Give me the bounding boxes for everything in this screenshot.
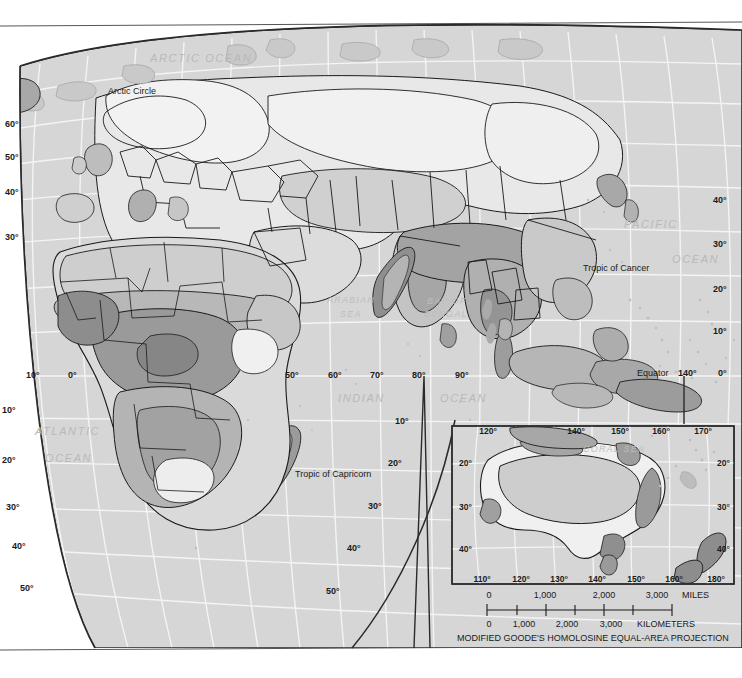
scale-km-unit: KILOMETERS xyxy=(637,619,695,629)
latitude-right-3: 10° xyxy=(713,326,727,336)
world-map-figure: ARCTIC OCEANATLANTICOCEANPACIFICOCEANIND… xyxy=(0,0,742,678)
inset-latitude-left-1: 30° xyxy=(459,502,472,512)
latitude-right-2: 20° xyxy=(713,284,727,294)
latitude-left-4: 10° xyxy=(2,405,16,415)
latitude-left-5: 20° xyxy=(2,455,16,465)
scale-miles-tick-0: 0 xyxy=(486,590,491,600)
scale-km-tick-2: 2,000 xyxy=(556,619,579,629)
ocean-label-indian-ocean-2: OCEAN xyxy=(440,392,487,404)
sea-label-arabian-sea-1: ARABIAN xyxy=(326,295,375,305)
inset-longitude-bottom-1: 120° xyxy=(512,574,530,584)
latitude-left-0: 60° xyxy=(5,119,19,129)
inset-latitude-right-2: 40° xyxy=(717,544,730,554)
sea-label-coral-sea: CORAL SEA xyxy=(583,444,645,454)
longitude-6: 90° xyxy=(455,370,469,380)
latitude-right-1: 30° xyxy=(713,239,727,249)
sea-label-bay-of-bengal-1: BAY OF xyxy=(427,296,466,306)
scale-km-tick-3: 3,000 xyxy=(600,619,623,629)
ocean-label-pacific-ocean-1: PACIFIC xyxy=(624,218,678,230)
longitude-1: 0° xyxy=(68,370,77,380)
latitude-left-7: 40° xyxy=(12,541,26,551)
ocean-label-pacific-ocean-2: OCEAN xyxy=(672,253,719,265)
latitude-inner-right-3: 40° xyxy=(347,543,361,553)
longitude-0: 10° xyxy=(26,370,40,380)
west-africa-zone xyxy=(58,291,119,345)
latitude-left-8: 50° xyxy=(20,583,34,593)
inset-latitude-left-2: 40° xyxy=(459,544,472,554)
inset-latitude-left-0: 20° xyxy=(459,458,472,468)
reference-label-equator: Equator xyxy=(637,368,669,378)
sea-label-bay-of-bengal-2: BENGAL xyxy=(424,309,468,319)
ocean-label-atlantic-ocean-1: ATLANTIC xyxy=(34,425,100,437)
longitude-4: 70° xyxy=(370,370,384,380)
inset-longitude-top-3: 160° xyxy=(652,426,670,436)
scale-miles-unit: MILES xyxy=(682,590,709,600)
reference-label-arctic-circle: Arctic Circle xyxy=(108,86,156,96)
inset-longitude-top-1: 140° xyxy=(567,426,585,436)
reference-label-tropic-of-capricorn: Tropic of Capricorn xyxy=(295,469,371,479)
hainan xyxy=(498,319,512,340)
latitude-left-3: 30° xyxy=(5,232,19,242)
latitude-right-0: 40° xyxy=(713,195,727,205)
inset-longitude-bottom-2: 130° xyxy=(550,574,568,584)
ocean-label-atlantic-ocean-2: OCEAN xyxy=(45,452,92,464)
latitude-right-4: 0° xyxy=(718,368,727,378)
sea-label-arabian-sea-2: SEA xyxy=(340,309,362,319)
inset-latitude-right-0: 20° xyxy=(717,458,730,468)
scale-km-tick-1: 1,000 xyxy=(513,619,536,629)
longitude-3: 60° xyxy=(328,370,342,380)
scale-miles-tick-3: 3,000 xyxy=(646,590,669,600)
east-africa-pale xyxy=(232,329,278,374)
longitude-7: 140° xyxy=(678,368,697,378)
inset-longitude-top-4: 170° xyxy=(694,426,712,436)
longitude-5: 80° xyxy=(412,370,426,380)
latitude-inner-right-0: 10° xyxy=(395,416,409,426)
latitude-left-2: 40° xyxy=(5,187,19,197)
map-page: ARCTIC OCEANATLANTICOCEANPACIFICOCEANIND… xyxy=(0,0,742,678)
latitude-inner-right-2: 30° xyxy=(368,501,382,511)
latitude-inner-right-4: 50° xyxy=(326,586,340,596)
reference-label-tropic-of-cancer: Tropic of Cancer xyxy=(583,263,649,273)
latitude-left-1: 50° xyxy=(5,152,19,162)
inset-longitude-bottom-5: 160° xyxy=(665,574,683,584)
inset-latitude-right-1: 30° xyxy=(717,502,730,512)
latitude-left-6: 30° xyxy=(6,502,20,512)
scale-miles-tick-1: 1,000 xyxy=(534,590,557,600)
ocean-label-arctic-ocean: ARCTIC OCEAN xyxy=(149,52,252,64)
scale-miles-tick-2: 2,000 xyxy=(593,590,616,600)
inset-longitude-bottom-0: 110° xyxy=(473,574,491,584)
southwest-fringe xyxy=(480,499,501,523)
latitude-inner-right-1: 20° xyxy=(388,458,402,468)
longitude-2: 50° xyxy=(285,370,299,380)
inset-longitude-bottom-3: 140° xyxy=(588,574,606,584)
inset-longitude-bottom-6: 180° xyxy=(707,574,725,584)
inset-longitude-top-0: 120° xyxy=(479,426,497,436)
inset-longitude-bottom-4: 150° xyxy=(627,574,645,584)
scale-km-tick-0: 0 xyxy=(486,619,491,629)
inset-longitude-top-2: 150° xyxy=(611,426,629,436)
ocean-label-indian-ocean-1: INDIAN xyxy=(338,392,385,404)
projection-caption: MODIFIED GOODE'S HOMOLOSINE EQUAL-AREA P… xyxy=(457,633,729,643)
